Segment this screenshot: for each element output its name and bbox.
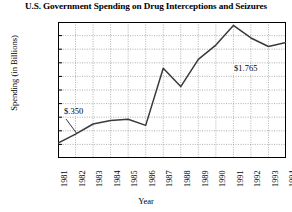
- x-tick-label: 1982: [79, 170, 87, 187]
- x-tick-label: 1989: [202, 170, 210, 187]
- x-tick-label: 1992: [254, 170, 262, 187]
- data-point-annotation: $.350: [63, 107, 84, 116]
- x-tick-label: 1984: [114, 170, 122, 187]
- x-axis-tick-labels: 1981198219831984198519861987198819891990…: [0, 0, 292, 212]
- chart-figure: U.S. Government Spending on Drug Interce…: [0, 0, 292, 212]
- x-tick-label: 1994: [289, 170, 292, 187]
- x-tick-label: 1990: [219, 170, 227, 187]
- x-tick-label: 1986: [149, 170, 157, 187]
- x-axis-label: Year: [0, 196, 292, 206]
- x-tick-label: 1987: [166, 170, 174, 187]
- x-tick-label: 1985: [131, 170, 139, 187]
- data-point-annotation: $1.765: [233, 64, 258, 73]
- x-tick-label: 1988: [184, 170, 192, 187]
- x-tick-label: 1991: [237, 170, 245, 187]
- x-tick-label: 1981: [61, 170, 69, 187]
- x-tick-label: 1993: [272, 170, 280, 187]
- x-tick-label: 1983: [96, 170, 104, 187]
